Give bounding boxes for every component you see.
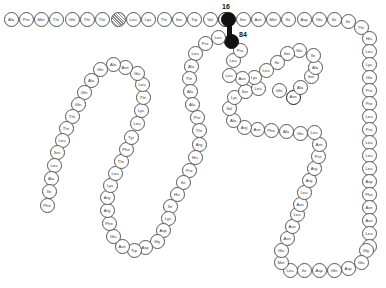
residue-met: Met xyxy=(34,12,49,27)
residue-leu: Leu xyxy=(222,68,237,83)
residue-number-16: 16 xyxy=(222,3,230,10)
residue-leu: Leu xyxy=(126,12,141,27)
residue-gln: Gln xyxy=(272,83,287,98)
residue-thr: Thr xyxy=(192,123,207,138)
residue-hatched xyxy=(111,12,126,27)
residue-thr: Thr xyxy=(49,12,64,27)
residue-leu: Leu xyxy=(211,30,226,45)
residue-glu: Glu xyxy=(312,12,327,27)
residue-number-84: 84 xyxy=(239,31,247,38)
residue-ile: Ile xyxy=(42,184,57,199)
residue-asn: Asn xyxy=(250,122,265,137)
residue-leu: Leu xyxy=(307,125,322,140)
residue-black xyxy=(224,34,239,49)
residue-asp: Asp xyxy=(297,12,312,27)
residue-phe: Phe xyxy=(102,216,117,231)
residue-met: Met xyxy=(266,12,281,27)
residue-phe: Phe xyxy=(264,123,279,138)
residue-lys: Lys xyxy=(141,12,156,27)
residue-tyr: Tyr xyxy=(124,130,139,145)
residue-ile: Ile xyxy=(281,12,296,27)
residue-val: Val xyxy=(203,12,218,27)
residue-thr: Thr xyxy=(95,12,110,27)
residue-asp: Asp xyxy=(312,263,327,278)
residue-lys: Lys xyxy=(134,103,149,118)
residue-phe: Phe xyxy=(40,198,55,213)
residue-ala: Ala xyxy=(4,12,19,27)
residue-thr: Thr xyxy=(80,12,95,27)
residue-asn: Asn xyxy=(251,12,266,27)
residue-ile: Ile xyxy=(297,263,312,278)
residue-ala: Ala xyxy=(106,57,121,72)
residue-pro: Pro xyxy=(19,12,34,27)
residue-gln: Gln xyxy=(65,12,80,27)
protein-topology-diagram: 16 84 AlaProMetThrGlnThrThrLeuLysThrSerT… xyxy=(0,0,386,288)
residue-ile: Ile xyxy=(327,12,342,27)
residue-thr: Thr xyxy=(157,12,172,27)
residue-glu: Glu xyxy=(106,229,121,244)
residue-ser: Ser xyxy=(172,12,187,27)
residue-trp: Trp xyxy=(187,12,202,27)
residue-ala: Ala xyxy=(279,124,294,139)
residue-black xyxy=(221,12,236,27)
residue-asn: Asn xyxy=(235,71,250,86)
residue-thr: Thr xyxy=(136,90,151,105)
residue-leu: Leu xyxy=(130,116,145,131)
residue-gln: Gln xyxy=(327,263,342,278)
residue-arg: Arg xyxy=(100,203,115,218)
residue-asp: Asp xyxy=(341,261,356,276)
residue-glu: Glu xyxy=(293,126,308,141)
residue-glu: Glu xyxy=(354,255,369,270)
residue-ser: Ser xyxy=(236,12,251,27)
residue-ile: Ile xyxy=(306,48,321,63)
